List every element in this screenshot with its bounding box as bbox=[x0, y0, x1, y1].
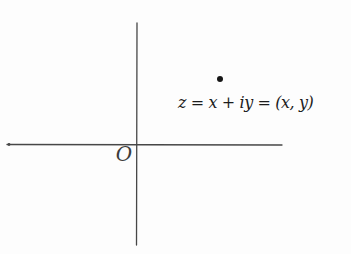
axes-graphic bbox=[0, 0, 351, 254]
ink-blob bbox=[8, 143, 11, 146]
y-axis-line bbox=[137, 23, 138, 245]
complex-plane-diagram: O z = x + iy = (x, y) bbox=[0, 0, 351, 254]
point-label: z = x + iy = (x, y) bbox=[178, 93, 313, 113]
origin-label: O bbox=[114, 144, 134, 164]
x-axis-line bbox=[7, 145, 282, 146]
point-marker bbox=[217, 76, 223, 82]
